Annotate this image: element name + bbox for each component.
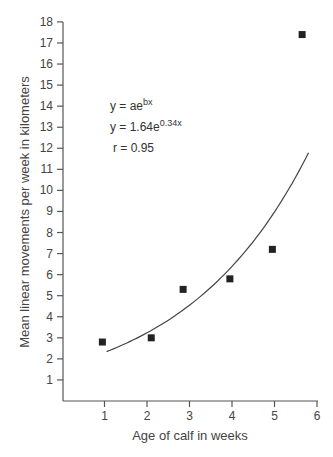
y-tick-label: 17 bbox=[40, 36, 54, 50]
x-tick-label: 5 bbox=[271, 409, 278, 423]
y-tick-label: 11 bbox=[41, 162, 54, 176]
y-tick-label: 15 bbox=[40, 78, 54, 92]
y-tick-label: 12 bbox=[40, 141, 54, 155]
correlation-coefficient: r = 0.95 bbox=[113, 141, 154, 155]
svg-text:y = 1.64e0.34x: y = 1.64e0.34x bbox=[110, 118, 182, 134]
y-tick-label: 13 bbox=[40, 120, 54, 134]
y-tick-label: 4 bbox=[46, 310, 53, 324]
x-tick-label: 6 bbox=[314, 409, 321, 423]
data-point-square bbox=[269, 246, 276, 253]
fit-curve bbox=[107, 153, 309, 352]
y-tick-label: 10 bbox=[40, 183, 54, 197]
data-point-square bbox=[299, 31, 306, 38]
y-axis-title: Mean linear movements per week in kilome… bbox=[17, 76, 32, 348]
data-point-square bbox=[226, 275, 233, 282]
y-tick-label: 3 bbox=[46, 331, 53, 345]
y-tick-label: 6 bbox=[46, 268, 53, 282]
equation-annotation: y = aebx y = 1.64e0.34x r = 0.95 bbox=[110, 97, 182, 155]
x-tick-label: 4 bbox=[229, 409, 236, 423]
equation-general: y = ae bbox=[110, 99, 143, 113]
y-tick-label: 5 bbox=[46, 289, 53, 303]
x-tick-label: 1 bbox=[101, 409, 108, 423]
y-tick-label: 7 bbox=[46, 247, 53, 261]
equation-fitted: y = 1.64e bbox=[110, 120, 160, 134]
x-tick-label: 3 bbox=[186, 409, 193, 423]
data-point-square bbox=[148, 334, 155, 341]
y-tick-label: 1 bbox=[46, 373, 53, 387]
x-tick-label: 2 bbox=[144, 409, 151, 423]
equation-fitted-exponent: 0.34x bbox=[160, 118, 183, 128]
data-point-square bbox=[180, 286, 187, 293]
y-tick-label: 14 bbox=[40, 99, 54, 113]
y-tick-label: 8 bbox=[46, 226, 53, 240]
data-points bbox=[99, 31, 306, 345]
svg-text:y = aebx: y = aebx bbox=[110, 97, 153, 113]
y-axis-ticks: 123456789101112131415161718 bbox=[40, 15, 63, 387]
scatter-chart: 123456789101112131415161718 123456 Age o… bbox=[0, 0, 333, 457]
x-axis-title: Age of calf in weeks bbox=[132, 428, 248, 443]
y-tick-label: 18 bbox=[40, 15, 54, 29]
y-tick-label: 16 bbox=[40, 57, 54, 71]
y-tick-label: 9 bbox=[46, 204, 53, 218]
equation-general-exponent: bx bbox=[143, 97, 153, 107]
x-axis-ticks: 123456 bbox=[101, 401, 321, 423]
y-tick-label: 2 bbox=[46, 352, 53, 366]
data-point-square bbox=[99, 339, 106, 346]
